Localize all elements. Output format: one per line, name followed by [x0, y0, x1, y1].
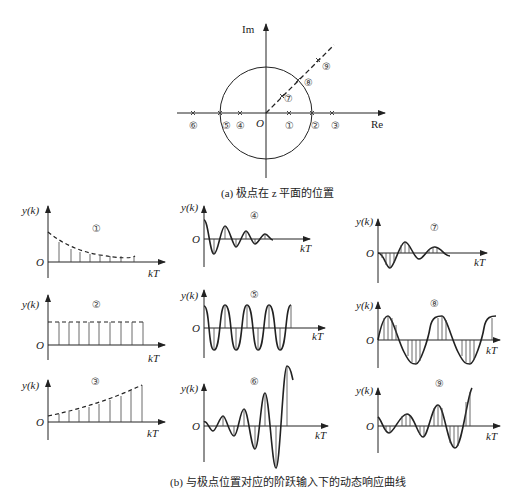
x-axis-label: kT — [474, 256, 486, 268]
response-panel-7: y(k) O kT ⑦ — [355, 215, 487, 283]
figure-canvas: Im Re O ⑥ ⑤ ④ ① ② ③ ⑦ ⑧ ⑨ y(k) O kT ① — [0, 0, 524, 495]
panel-number: ⑤ — [250, 289, 259, 300]
origin-label: O — [36, 256, 44, 268]
y-axis-label: y(k) — [180, 289, 198, 302]
re-label: Re — [371, 118, 383, 130]
origin-label: O — [366, 247, 374, 259]
origin-label: O — [256, 117, 264, 129]
pole-ray — [266, 45, 334, 113]
y-axis-label: y(k) — [355, 299, 373, 312]
pole-label-6: ⑥ — [189, 120, 198, 131]
origin-label: O — [366, 334, 374, 346]
z-plane-diagram: Im Re O ⑥ ⑤ ④ ① ② ③ ⑦ ⑧ ⑨ — [177, 23, 385, 178]
x-axis-label: kT — [486, 430, 498, 442]
pole-label-1: ① — [285, 120, 294, 131]
pole-label-4: ④ — [236, 120, 245, 131]
origin-label: O — [192, 233, 200, 245]
x-axis-label: kT — [312, 330, 324, 342]
pole-label-9: ⑨ — [322, 61, 331, 72]
y-axis-label: y(k) — [355, 384, 373, 397]
panel-number: ① — [92, 223, 101, 234]
response-panel-5: y(k) O kT ⑤ — [180, 289, 325, 358]
y-axis-label: y(k) — [355, 215, 373, 228]
y-axis-label: y(k) — [180, 201, 198, 214]
y-axis-label: y(k) — [21, 298, 39, 311]
response-panel-1: y(k) O kT ① — [21, 204, 165, 279]
x-axis-label: kT — [148, 352, 160, 364]
origin-label: O — [366, 420, 374, 432]
response-panel-3: y(k) O kT ③ — [21, 376, 165, 440]
panel-number: ④ — [250, 210, 259, 221]
response-panel-4: y(k) O kT ④ — [180, 201, 312, 267]
origin-label: O — [36, 339, 44, 351]
x-axis-label: kT — [486, 344, 498, 356]
response-panel-2: y(k) O kT ② — [21, 295, 165, 364]
origin-label: O — [192, 420, 200, 432]
pole-label-5: ⑤ — [222, 120, 231, 131]
im-label: Im — [242, 23, 255, 35]
caption-a: (a) 极点在 z 平面的位置 — [221, 184, 334, 200]
pole-label-7: ⑦ — [284, 93, 293, 104]
y-axis-label: y(k) — [21, 204, 39, 217]
x-axis-label: kT — [148, 267, 160, 279]
x-axis-label: kT — [315, 429, 327, 441]
panel-number: ⑧ — [430, 298, 439, 309]
response-panel-8: y(k) O kT ⑧ — [355, 298, 500, 368]
x-axis-label: kT — [147, 427, 159, 439]
origin-label: O — [36, 416, 44, 428]
panel-number: ⑨ — [435, 378, 444, 389]
y-axis-label: y(k) — [180, 382, 198, 395]
panel-number: ② — [92, 299, 101, 310]
panel-number: ③ — [91, 376, 100, 387]
pole-label-8: ⑧ — [304, 77, 313, 88]
pole-label-2: ② — [311, 120, 320, 131]
panel-number: ⑥ — [250, 376, 259, 387]
pole-label-3: ③ — [331, 120, 340, 131]
x-axis-label: kT — [300, 242, 312, 254]
origin-label: O — [192, 322, 200, 334]
response-panel-6: y(k) O kT ⑥ — [180, 366, 328, 468]
response-panel-9: y(k) O kT ⑨ — [355, 378, 500, 453]
y-axis-label: y(k) — [21, 379, 39, 392]
caption-b: (b) 与极点位置对应的阶跃输入下的动态响应曲线 — [170, 473, 406, 489]
panel-number: ⑦ — [430, 222, 439, 233]
